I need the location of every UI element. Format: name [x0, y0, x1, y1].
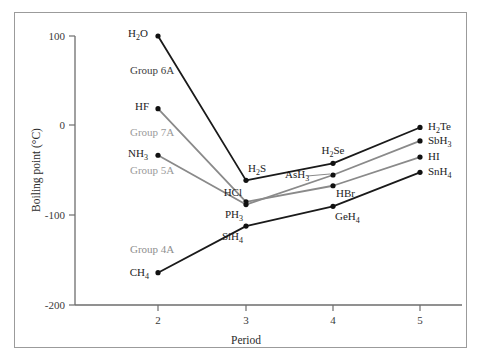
point-label-ash3: AsH3 — [285, 168, 309, 183]
data-point-sih4 — [243, 223, 248, 228]
group-label-layer: Group 6AGroup 7AGroup 5AGroup 4A — [130, 64, 174, 255]
series-line-group-6a — [158, 36, 420, 180]
point-label-h2se: H2Se — [322, 144, 345, 159]
x-axis-title: Period — [231, 334, 261, 346]
data-point-hi — [417, 154, 422, 159]
point-label-snh4: SnH4 — [428, 165, 452, 180]
point-label-geh4: GeH4 — [335, 210, 360, 225]
point-label-ch4: CH4 — [130, 266, 149, 281]
data-point-h2te — [417, 125, 422, 130]
point-label-h2o: H2O — [128, 27, 148, 42]
data-point-h2o — [155, 33, 160, 38]
data-point-ph3 — [243, 202, 248, 207]
x-tick-label-4: 4 — [330, 314, 336, 326]
group-label-group-6a: Group 6A — [130, 64, 174, 76]
boiling-point-line-chart: 100 0 -100 -200 2 3 4 5 Period Boiling p… — [0, 0, 489, 363]
leader-line-ash3 — [307, 174, 330, 176]
group-label-group-7a: Group 7A — [130, 126, 174, 138]
data-point-hbr — [330, 183, 335, 188]
group-label-group-5a: Group 5A — [130, 164, 174, 176]
point-label-hcl: HCl — [224, 186, 242, 198]
data-point-nh3 — [155, 153, 160, 158]
x-axis: 2 3 4 5 — [75, 305, 462, 326]
point-label-hbr: HBr — [336, 187, 355, 199]
y-tick-label-0: 0 — [60, 119, 66, 131]
point-label-sbh3: SbH3 — [428, 134, 452, 149]
leader-lines — [307, 174, 330, 176]
data-point-h2s — [243, 178, 248, 183]
figure-canvas: 100 0 -100 -200 2 3 4 5 Period Boiling p… — [0, 0, 489, 363]
y-axis-title: Boiling point (°C) — [30, 128, 43, 212]
y-tick-label-neg100: -100 — [45, 209, 66, 221]
point-label-hi: HI — [428, 150, 440, 162]
series-layer — [155, 33, 422, 275]
y-tick-label-neg200: -200 — [45, 299, 66, 311]
data-point-geh4 — [330, 204, 335, 209]
point-label-nh3: NH3 — [128, 147, 148, 162]
data-point-h2se — [330, 161, 335, 166]
data-point-sbh3 — [417, 138, 422, 143]
x-tick-label-3: 3 — [243, 314, 249, 326]
data-point-snh4 — [417, 170, 422, 175]
y-axis: 100 0 -100 -200 — [45, 30, 75, 311]
point-label-sih4: SiH4 — [222, 230, 243, 245]
y-tick-label-100: 100 — [49, 30, 66, 42]
data-point-ash3 — [330, 172, 335, 177]
data-point-ch4 — [155, 270, 160, 275]
x-tick-label-2: 2 — [155, 314, 161, 326]
point-label-ph3: PH3 — [225, 208, 243, 223]
data-point-hf — [155, 106, 160, 111]
point-label-h2s: H2S — [248, 162, 266, 177]
series-line-group-4a — [158, 172, 420, 272]
point-label-hf: HF — [135, 100, 149, 112]
group-label-group-4a: Group 4A — [130, 243, 174, 255]
x-tick-label-5: 5 — [417, 314, 423, 326]
